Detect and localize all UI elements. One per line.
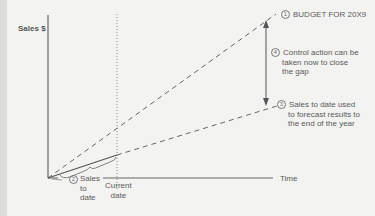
- sales-label-line: date: [80, 193, 100, 203]
- leader-2: [52, 179, 62, 180]
- current-date-label: Current date: [105, 181, 132, 200]
- sales-to-date-label: Sales to date: [80, 174, 100, 203]
- arrow-down-icon: [263, 98, 269, 106]
- forecast-line: [117, 106, 277, 155]
- sales-label-line: to: [80, 184, 100, 194]
- budget-line: [48, 14, 276, 178]
- sales-label-line: Sales: [80, 174, 100, 184]
- note4-line: taken now to close: [271, 58, 359, 68]
- current-date-line-2: date: [105, 191, 132, 201]
- budget-label: BUDGET FOR 20X9: [293, 10, 366, 19]
- number-1-icon: 1: [281, 10, 290, 19]
- note3-line: to forecast results to: [277, 110, 360, 120]
- annotation-control-action: 4Control action can be taken now to clos…: [271, 48, 359, 77]
- x-axis-label: Time: [280, 174, 297, 184]
- number-2-badge: 2: [69, 175, 78, 184]
- note4-line: the gap: [271, 67, 359, 77]
- number-3-icon: 3: [277, 100, 286, 109]
- note4-line: Control action can be: [283, 48, 359, 57]
- arrow-up-icon: [263, 20, 269, 28]
- number-4-icon: 4: [271, 48, 280, 57]
- current-date-line-1: Current: [105, 181, 132, 191]
- note3-line: Sales to date used: [289, 100, 355, 109]
- annotation-forecast: 3Sales to date used to forecast results …: [277, 100, 360, 129]
- annotation-budget: 1BUDGET FOR 20X9: [281, 10, 366, 20]
- y-axis-label: Sales $: [18, 24, 46, 34]
- note3-line: the end of the year: [277, 119, 360, 129]
